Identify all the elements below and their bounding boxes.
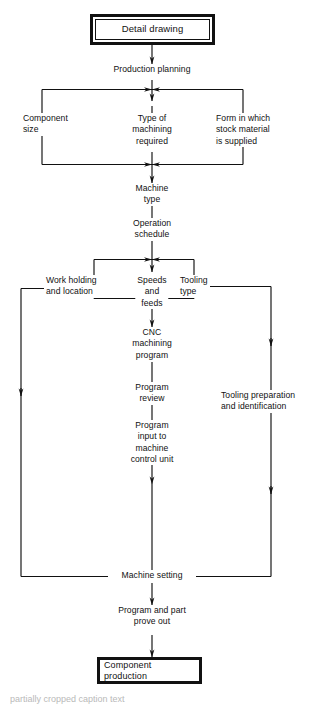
label-operation-schedule: Operation schedule	[131, 218, 173, 241]
clipped-caption: partially cropped caption text	[10, 694, 240, 704]
label-cnc-machining-program: CNC machining program	[130, 327, 174, 361]
label-form-stock-material: Form in which stock material is supplied	[214, 113, 272, 147]
label-speeds-and-feeds: Speeds and feeds	[135, 275, 168, 309]
label-machine-setting: Machine setting	[120, 570, 185, 581]
label-prove-out: Program and part prove out	[116, 605, 188, 628]
label-machine-type: Machine type	[134, 183, 171, 206]
label-type-of-machining: Type of machining required	[130, 113, 174, 147]
terminal-component-production[interactable]: Component production	[97, 657, 202, 684]
label-tooling-type: Tooling type	[178, 275, 210, 298]
label-program-input: Program input to machine control unit	[129, 420, 176, 465]
terminal-detail-drawing[interactable]: Detail drawing	[90, 14, 215, 45]
terminal-component-production-label: Component production	[100, 660, 199, 681]
label-component-size: Component size	[21, 113, 70, 136]
terminal-detail-drawing-label: Detail drawing	[118, 24, 188, 35]
label-tooling-preparation: Tooling preparation and identification	[219, 390, 297, 413]
flowchart-diagram: Detail drawing Component production Prod…	[0, 0, 322, 704]
label-production-planning: Production planning	[112, 64, 193, 75]
label-work-holding: Work holding and location	[44, 275, 99, 298]
label-program-review: Program review	[133, 382, 170, 405]
